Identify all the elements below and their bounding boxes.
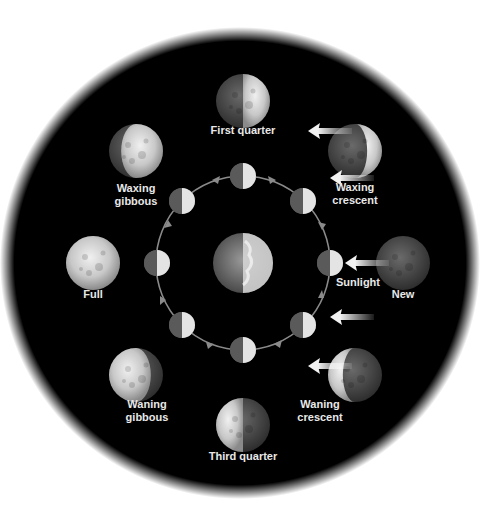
- phase-moon-third-quarter-icon: [216, 398, 270, 452]
- phase-moon-first-quarter-icon: [216, 74, 270, 128]
- label-full: Full: [83, 288, 103, 301]
- label-waxing-gibbous: Waxing gibbous: [115, 182, 158, 208]
- phase-moon-waning-crescent-icon: [328, 348, 382, 402]
- label-sunlight: Sunlight: [336, 276, 380, 289]
- orbit-moon-icon: [290, 312, 316, 338]
- label-waning-crescent: Waning crescent: [297, 398, 342, 424]
- phase-moon-waning-gibbous-icon: [109, 348, 163, 402]
- orbit-moon-icon: [144, 250, 170, 276]
- orbit-moon-icon: [230, 337, 256, 363]
- phase-moon-full-icon: [66, 236, 120, 290]
- orbit-moon-icon: [169, 312, 195, 338]
- label-waxing-crescent: Waxing crescent: [332, 181, 377, 207]
- orbit-moon-icon: [169, 188, 195, 214]
- label-waning-gibbous: Waning gibbous: [126, 398, 169, 424]
- orbit-moon-icon: [290, 188, 316, 214]
- phase-moon-waxing-gibbous-icon: [109, 124, 163, 178]
- orbit-moon-icon: [230, 163, 256, 189]
- label-new: New: [392, 288, 415, 301]
- moon-phases-diagram: [0, 0, 486, 511]
- label-first-quarter: First quarter: [211, 124, 276, 137]
- orbit-moon-icon: [317, 250, 343, 276]
- earth-icon: [213, 233, 273, 293]
- label-third-quarter: Third quarter: [209, 450, 277, 463]
